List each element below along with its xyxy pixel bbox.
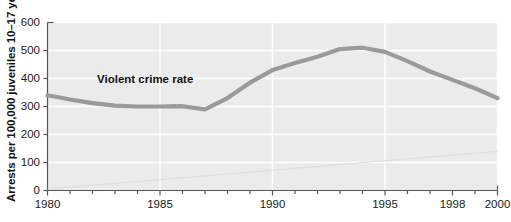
x-tick-label: 1990 bbox=[260, 198, 286, 210]
series-annotation-label: Violent crime rate bbox=[97, 73, 193, 85]
x-tick-label: 1998 bbox=[440, 198, 466, 210]
x-tick-label: 1995 bbox=[372, 198, 398, 210]
plot-area bbox=[0, 0, 511, 222]
x-tick-label: 2000 bbox=[485, 198, 511, 210]
violent-crime-rate-chart: Arrests per 100,000 juveniles 10–17 year… bbox=[0, 0, 511, 222]
x-tick-label: 1985 bbox=[147, 198, 173, 210]
x-tick-label: 1980 bbox=[35, 198, 61, 210]
